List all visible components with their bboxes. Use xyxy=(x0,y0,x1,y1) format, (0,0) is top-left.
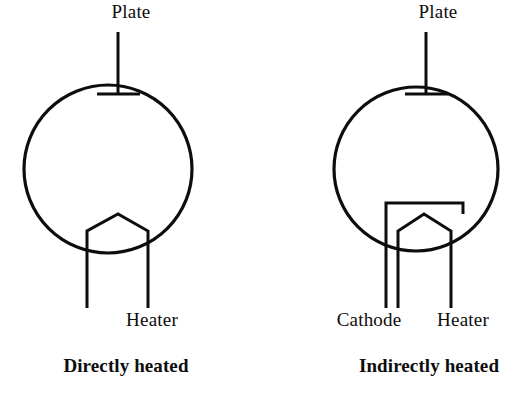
tube-diagram-figure: Plate Heater Directly heated Plate Catho… xyxy=(0,0,522,401)
right-heater-label: Heater xyxy=(437,309,489,330)
left-tube-envelope xyxy=(24,85,192,253)
left-plate-label: Plate xyxy=(112,1,151,22)
left-filament-heater xyxy=(87,214,148,308)
right-cathode-label: Cathode xyxy=(337,309,402,330)
right-plate-label: Plate xyxy=(419,1,458,22)
right-caption: Indirectly heated xyxy=(359,355,499,376)
left-caption: Directly heated xyxy=(63,355,188,376)
diagram-canvas: Plate Heater Directly heated Plate Catho… xyxy=(0,0,522,401)
right-filament-heater xyxy=(398,214,451,308)
directly-heated-diagram: Plate Heater Directly heated xyxy=(24,1,192,376)
right-tube-envelope xyxy=(334,87,498,251)
left-heater-label: Heater xyxy=(126,309,178,330)
indirectly-heated-diagram: Plate Cathode Heater Indirectly heated xyxy=(334,1,499,376)
